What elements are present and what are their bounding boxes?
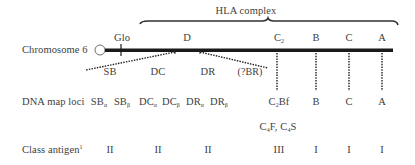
subregion-br: (?BR) bbox=[238, 67, 263, 77]
class-dc: II bbox=[154, 145, 161, 156]
locus-sub: α bbox=[104, 102, 107, 108]
marker-c2-sub: 2 bbox=[281, 38, 284, 44]
centromere-icon bbox=[95, 45, 105, 55]
c4s-suffix: S bbox=[291, 121, 297, 132]
marker-c2: C2 bbox=[274, 33, 284, 44]
class-dr: II bbox=[204, 145, 211, 156]
locus-sub: α bbox=[154, 102, 157, 108]
marker-a: A bbox=[378, 33, 386, 44]
footnote-marker: 1 bbox=[80, 144, 83, 150]
marker-d: D bbox=[183, 33, 191, 44]
locus-b: B bbox=[312, 97, 319, 108]
locus-a: A bbox=[378, 97, 386, 108]
c4f-suffix: F, bbox=[270, 121, 278, 132]
c4s-main: C bbox=[280, 121, 287, 132]
locus-sub: β bbox=[127, 102, 130, 108]
locus-main: DC bbox=[162, 96, 177, 107]
class-sb: II bbox=[106, 145, 113, 156]
marker-glo: Glo bbox=[114, 33, 130, 44]
locus-sb-beta: SBβ bbox=[114, 97, 130, 108]
hla-complex-brace bbox=[140, 18, 398, 25]
class-b: I bbox=[314, 145, 318, 156]
locus-dr-alpha: DRα bbox=[186, 97, 204, 108]
dna-map-loci-label: DNA map loci bbox=[22, 97, 84, 108]
locus-main: SB bbox=[91, 96, 104, 107]
locus-c2-bf: C2Bf bbox=[269, 97, 290, 108]
locus-c4f-c4s: C4F, C4S bbox=[260, 122, 297, 133]
locus-sb-alpha: SBα bbox=[91, 97, 107, 108]
hla-complex-diagram: HLA complex Chromosome 6 Glo D C2 B C A … bbox=[0, 0, 415, 165]
class-a: I bbox=[380, 145, 384, 156]
locus-c: C bbox=[345, 97, 352, 108]
locus-dc-beta: DCβ bbox=[162, 97, 180, 108]
locus-dr-beta: DRβ bbox=[210, 97, 228, 108]
diagram-graphics bbox=[0, 0, 415, 165]
class-c2: III bbox=[274, 145, 285, 156]
marker-b: B bbox=[312, 33, 319, 44]
locus-main: DC bbox=[139, 96, 154, 107]
class-c: I bbox=[347, 145, 351, 156]
chromosome-bar bbox=[105, 49, 393, 53]
locus-main: SB bbox=[114, 96, 127, 107]
locus-sub: α bbox=[201, 102, 204, 108]
class-antigen-text: Class antigen bbox=[22, 144, 80, 155]
subregion-dc: DC bbox=[151, 67, 166, 78]
subregion-sb: SB bbox=[103, 67, 116, 78]
locus-main: DR bbox=[210, 96, 225, 107]
marker-c: C bbox=[345, 33, 352, 44]
locus-main: DR bbox=[186, 96, 201, 107]
class-antigen-label: Class antigen1 bbox=[22, 145, 83, 156]
chromosome-label: Chromosome 6 bbox=[22, 45, 88, 56]
locus-sub: β bbox=[225, 102, 228, 108]
subregion-dr: DR bbox=[201, 67, 216, 78]
locus-sub: β bbox=[177, 102, 180, 108]
locus-suffix: Bf bbox=[279, 96, 290, 107]
locus-dc-alpha: DCα bbox=[139, 97, 157, 108]
hla-complex-title: HLA complex bbox=[216, 6, 277, 17]
